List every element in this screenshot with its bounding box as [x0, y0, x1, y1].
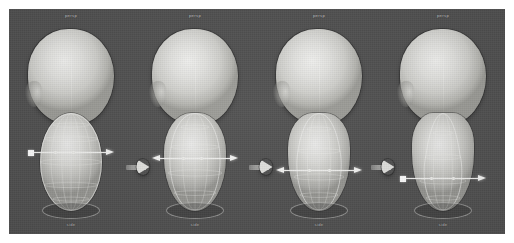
- upper-bulb-mesh: [152, 29, 238, 125]
- bulb-notch: [24, 81, 42, 107]
- translate-gizmo[interactable]: [152, 155, 238, 163]
- model-3d[interactable]: [391, 23, 495, 223]
- viewport-top-label: persp: [381, 14, 505, 18]
- gizmo-arrow-icon[interactable]: [478, 175, 486, 181]
- wireframe-overlay: [40, 113, 102, 211]
- bulb-notch: [396, 81, 414, 107]
- gizmo-point: [452, 177, 455, 180]
- viewport-panel-2[interactable]: persp: [133, 9, 257, 234]
- panel-row: persp: [9, 9, 505, 234]
- gizmo-point: [54, 151, 57, 154]
- ground-shadow: [166, 202, 224, 219]
- gizmo-point: [308, 169, 311, 172]
- viewport-top-label: persp: [9, 14, 133, 18]
- viewport-bottom-label: side: [381, 223, 505, 227]
- gizmo-axis: [406, 178, 478, 179]
- gizmo-point: [182, 157, 185, 160]
- viewport-top-label: persp: [257, 14, 381, 18]
- viewport-bottom-label: side: [9, 223, 133, 227]
- wireframe-overlay: [288, 113, 350, 211]
- model-3d[interactable]: [143, 23, 247, 223]
- gizmo-arrow-icon[interactable]: [230, 155, 238, 161]
- gizmo-axis: [34, 152, 106, 153]
- gizmo-axis: [282, 170, 354, 171]
- viewport-panel-4[interactable]: persp: [381, 9, 505, 234]
- gizmo-point: [430, 177, 433, 180]
- viewport-top-label: persp: [133, 14, 257, 18]
- bulb-seam: [443, 37, 444, 120]
- bulb-seam: [319, 37, 320, 120]
- upper-bulb-mesh: [400, 29, 486, 125]
- gizmo-point: [72, 151, 75, 154]
- ground-shadow: [42, 202, 100, 219]
- gizmo-arrow-icon[interactable]: [354, 167, 362, 173]
- ground-shadow: [290, 202, 348, 219]
- bulb-notch: [272, 81, 290, 107]
- viewport-panel-3[interactable]: persp: [257, 9, 381, 234]
- bulb-notch: [148, 81, 166, 107]
- model-3d[interactable]: [267, 23, 371, 223]
- lower-bulb-mesh[interactable]: [288, 113, 350, 211]
- translate-gizmo[interactable]: [400, 175, 486, 183]
- bulb-seam: [71, 37, 72, 120]
- viewport-panel-1[interactable]: persp: [9, 9, 133, 234]
- viewport-bottom-label: side: [133, 223, 257, 227]
- translate-gizmo[interactable]: [28, 149, 114, 157]
- bulb-seam: [195, 37, 196, 120]
- viewport-bottom-label: side: [257, 223, 381, 227]
- upper-bulb-mesh: [28, 29, 114, 125]
- ground-shadow: [414, 202, 472, 219]
- translate-gizmo[interactable]: [276, 167, 362, 175]
- gizmo-axis: [158, 158, 230, 159]
- wireframe-overlay: [412, 113, 474, 211]
- gizmo-point: [200, 157, 203, 160]
- model-3d[interactable]: [19, 23, 123, 223]
- modeling-sequence-figure: persp: [9, 9, 505, 234]
- upper-bulb-mesh: [276, 29, 362, 125]
- gizmo-point: [328, 169, 331, 172]
- gizmo-arrow-icon[interactable]: [106, 149, 114, 155]
- lower-bulb-mesh[interactable]: [40, 113, 102, 211]
- lower-bulb-mesh[interactable]: [412, 113, 474, 211]
